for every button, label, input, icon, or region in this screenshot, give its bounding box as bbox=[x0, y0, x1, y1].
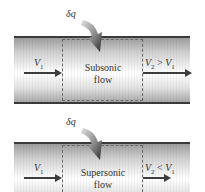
heat-addition-label: δq bbox=[66, 116, 76, 127]
outlet-flow-arrow bbox=[143, 72, 186, 74]
inlet-velocity-label: V1 bbox=[34, 162, 44, 176]
inlet-flow-arrow bbox=[24, 177, 56, 179]
flow-regime-label: Subsonic flow bbox=[70, 62, 136, 86]
inlet-velocity-label: V1 bbox=[34, 57, 44, 71]
heat-arrow-icon bbox=[80, 18, 110, 54]
outlet-flow-arrow bbox=[143, 177, 165, 179]
supersonic-panel: δq V1 Supersonic flow V2 < V1 bbox=[0, 110, 205, 192]
heat-addition-label: δq bbox=[66, 8, 76, 19]
subsonic-panel: δq V1 Subsonic flow V2 > V1 bbox=[0, 0, 205, 110]
outlet-velocity-label: V2 > V1 bbox=[145, 57, 175, 71]
inlet-flow-arrow bbox=[24, 72, 56, 74]
flow-regime-label: Supersonic flow bbox=[66, 167, 140, 191]
heat-arrow-icon bbox=[80, 126, 110, 162]
